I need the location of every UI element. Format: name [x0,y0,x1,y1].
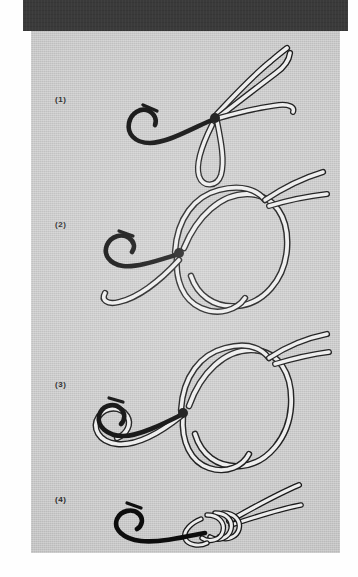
fish-hook-3 [99,398,183,436]
scanned-page: (1) [0,0,358,577]
hook-eye-knot-3 [178,408,188,418]
knot-line-group-2 [104,172,327,312]
fish-hook-2 [106,231,179,266]
step-figure-2 [79,156,329,321]
hook-eye-knot-1 [210,113,220,123]
scan-edge-band [23,0,348,31]
knot-line-group-4 [185,485,301,545]
step-label-2: (2) [55,220,67,229]
band-grain-texture [23,0,348,31]
step-label-1: (1) [55,95,67,104]
step-figure-4 [79,463,329,553]
illustration-panel: (1) [31,31,340,553]
hook-eye-knot-2 [174,248,184,258]
step-label-3: (3) [55,380,67,389]
fish-hook-1 [129,105,214,143]
knot-line-group-3 [96,334,329,470]
step-figure-3 [79,316,329,481]
step-label-4: (4) [55,495,67,504]
